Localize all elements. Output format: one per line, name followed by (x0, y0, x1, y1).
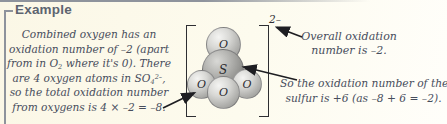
note-line: So the oxidation number of the (280, 77, 447, 92)
atom-label: O (242, 78, 251, 91)
example-box-title: Example (15, 2, 72, 17)
note-line: Overall oxidation (294, 30, 404, 44)
note-line: from in O2 where it's 0). There (2, 56, 176, 71)
atom-label: S (219, 63, 227, 77)
sulfur-oxidation-note: So the oxidation number of the sulfur is… (280, 77, 447, 106)
note-line: sulfur is +6 (as –8 + 6 = –2). (280, 92, 447, 107)
atom-label: O (197, 78, 206, 91)
note-line: oxidation number of –2 (apart (2, 42, 176, 57)
note-line: are 4 oxygen atoms in SO42–, (2, 71, 176, 86)
note-line: Combined oxygen has an (2, 27, 176, 42)
note-line: so the total oxidation number (2, 85, 176, 100)
ion-bracket-right (259, 25, 269, 117)
oxygen-explanation-note: Combined oxygen has an oxidation number … (2, 27, 176, 115)
atom-label: O (219, 86, 228, 99)
ion-charge-superscript: 2– (269, 13, 281, 25)
example-box: Example Combined oxygen has an oxidation… (0, 0, 447, 124)
overall-charge-note: Overall oxidation number is –2. (294, 30, 404, 58)
note-line: number is –2. (294, 44, 404, 58)
note-line: from oxygens is 4 × –2 = –8. (2, 100, 176, 115)
atom-oxygen-front: O (207, 76, 240, 109)
